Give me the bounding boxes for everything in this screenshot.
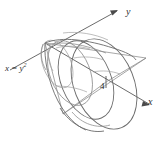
paraboloid-silhouette	[45, 39, 136, 130]
x-axis-label: x	[148, 97, 152, 107]
x-tick-label-4: 4	[100, 82, 105, 91]
curve-equation-base: x = y	[5, 63, 24, 73]
back-arc-5	[56, 86, 87, 92]
solid-of-revolution-figure: y x x = y2 4	[0, 0, 164, 145]
back-arc-3	[74, 57, 104, 60]
curve-equation-exponent: 2	[24, 62, 27, 68]
y-axis-label: y	[126, 7, 130, 17]
curve-equation-label: x = y2	[5, 62, 27, 73]
back-arc-1	[63, 32, 108, 40]
